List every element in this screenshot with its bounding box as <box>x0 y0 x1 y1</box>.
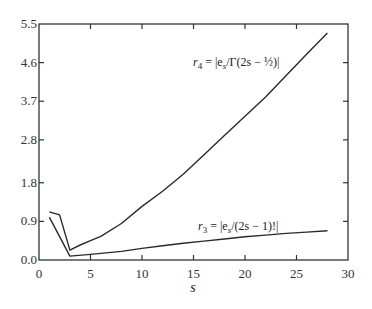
y-tick-label: 2.8 <box>21 132 37 147</box>
y-tick-label: 3.7 <box>21 93 38 108</box>
x-tick-label: 15 <box>187 266 200 281</box>
x-tick-label: 10 <box>136 266 149 281</box>
y-tick-label: 0.0 <box>21 252 37 267</box>
x-axis-label: s <box>190 280 196 295</box>
y-tick-label: 1.8 <box>21 175 37 190</box>
x-tick-label: 20 <box>239 266 252 281</box>
y-tick-label: 4.6 <box>21 55 38 70</box>
x-tick-label: 30 <box>342 266 355 281</box>
series-r3-line <box>49 217 327 256</box>
y-tick-label: 0.9 <box>21 213 37 228</box>
series-r4-line <box>49 33 327 250</box>
r3-annotation: r3 = |es/(2s − 1)!| <box>198 219 278 235</box>
y-tick-label: 5.5 <box>21 16 37 31</box>
line-chart: 0510152025300.00.91.82.83.74.65.5 r4 = |… <box>0 0 372 309</box>
x-tick-label: 5 <box>87 266 94 281</box>
r4-annotation: r4 = |es/Γ(2s − ½)| <box>193 55 279 71</box>
x-tick-label: 25 <box>290 266 303 281</box>
x-tick-label: 0 <box>36 266 43 281</box>
data-series <box>49 33 327 256</box>
